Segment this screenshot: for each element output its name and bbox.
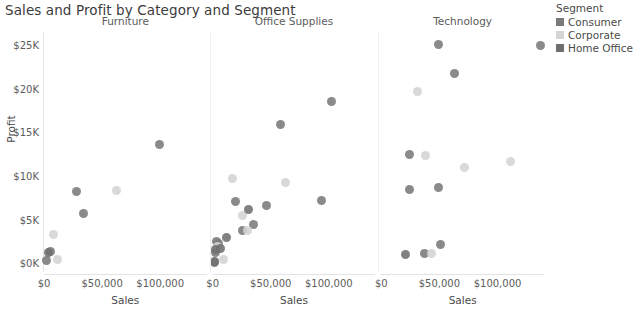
facet-title: Furniture bbox=[44, 15, 207, 27]
facet-separator bbox=[210, 32, 211, 272]
x-axis-line bbox=[381, 274, 544, 275]
data-point[interactable] bbox=[79, 209, 88, 218]
data-point[interactable] bbox=[405, 185, 414, 194]
legend-swatch-icon bbox=[556, 18, 564, 26]
data-point[interactable] bbox=[281, 178, 290, 187]
y-tick-label: $25K bbox=[13, 40, 39, 51]
y-tick-label: $15K bbox=[13, 127, 39, 138]
data-point[interactable] bbox=[276, 120, 285, 129]
legend-items: ConsumerCorporateHome Office bbox=[556, 16, 640, 54]
data-point[interactable] bbox=[155, 140, 164, 149]
facet-title: Technology bbox=[381, 15, 544, 27]
data-point[interactable] bbox=[44, 248, 53, 257]
x-tick-label: $50,000 bbox=[81, 278, 122, 289]
x-axis: $0$50,000$100,000Sales bbox=[381, 274, 544, 308]
y-axis-title: Profit bbox=[5, 99, 17, 159]
y-tick-label: $0K bbox=[20, 258, 39, 269]
facet-title: Office Supplies bbox=[213, 15, 376, 27]
legend-title: Segment bbox=[556, 2, 640, 14]
data-point[interactable] bbox=[434, 183, 443, 192]
facet-panel: Office Supplies bbox=[213, 32, 376, 272]
legend-item-corporate[interactable]: Corporate bbox=[556, 29, 640, 41]
x-axis-title: Sales bbox=[213, 294, 376, 306]
data-point[interactable] bbox=[327, 97, 336, 106]
plot-area: Furniture$0$50,000$100,000SalesOffice Su… bbox=[44, 32, 544, 272]
data-point[interactable] bbox=[216, 244, 225, 253]
facet-separator bbox=[378, 32, 379, 272]
data-point[interactable] bbox=[506, 157, 515, 166]
data-point[interactable] bbox=[244, 205, 253, 214]
data-point[interactable] bbox=[427, 249, 436, 258]
data-point[interactable] bbox=[434, 40, 443, 49]
x-axis-title: Sales bbox=[381, 294, 544, 306]
legend-swatch-icon bbox=[556, 44, 564, 52]
x-tick-label: $0 bbox=[375, 278, 388, 289]
data-point[interactable] bbox=[262, 201, 271, 210]
data-point[interactable] bbox=[228, 174, 237, 183]
y-tick-label: $20K bbox=[13, 83, 39, 94]
legend-item-label: Consumer bbox=[568, 16, 622, 28]
data-point[interactable] bbox=[219, 255, 228, 264]
facet-panel: Furniture bbox=[44, 32, 207, 272]
x-tick-label: $50,000 bbox=[250, 278, 291, 289]
x-axis: $0$50,000$100,000Sales bbox=[44, 274, 207, 308]
x-axis-line bbox=[213, 274, 376, 275]
legend-item-home-office[interactable]: Home Office bbox=[556, 42, 640, 54]
y-tick-label: $5K bbox=[20, 214, 39, 225]
x-tick-label: $0 bbox=[206, 278, 219, 289]
data-point[interactable] bbox=[436, 240, 445, 249]
legend-item-label: Home Office bbox=[568, 42, 633, 54]
data-point[interactable] bbox=[42, 256, 51, 265]
legend-swatch-icon bbox=[556, 31, 564, 39]
data-point[interactable] bbox=[112, 186, 121, 195]
facet-background bbox=[44, 32, 207, 272]
data-point[interactable] bbox=[450, 69, 459, 78]
data-point[interactable] bbox=[405, 150, 414, 159]
x-tick-label: $100,000 bbox=[474, 278, 522, 289]
legend: Segment ConsumerCorporateHome Office bbox=[556, 2, 640, 55]
data-point[interactable] bbox=[49, 230, 58, 239]
y-tick-label: $10K bbox=[13, 171, 39, 182]
facet-background bbox=[213, 32, 376, 272]
x-axis: $0$50,000$100,000Sales bbox=[213, 274, 376, 308]
facet-panel: Technology bbox=[381, 32, 544, 272]
x-axis-line bbox=[44, 274, 207, 275]
x-tick-label: $50,000 bbox=[419, 278, 460, 289]
x-axis-title: Sales bbox=[44, 294, 207, 306]
data-point[interactable] bbox=[413, 87, 422, 96]
legend-item-consumer[interactable]: Consumer bbox=[556, 16, 640, 28]
legend-item-label: Corporate bbox=[568, 29, 621, 41]
data-point[interactable] bbox=[210, 257, 219, 266]
x-tick-label: $100,000 bbox=[136, 278, 184, 289]
x-tick-label: $100,000 bbox=[305, 278, 353, 289]
x-tick-label: $0 bbox=[38, 278, 51, 289]
scatter-chart: Sales and Profit by Category and Segment… bbox=[0, 0, 640, 315]
